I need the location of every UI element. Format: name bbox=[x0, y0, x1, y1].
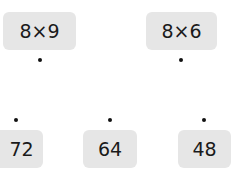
answer-card-1[interactable]: 72 bbox=[0, 130, 43, 168]
connector-dot-answer-1[interactable] bbox=[14, 118, 18, 122]
connector-dot-expression-2[interactable] bbox=[179, 58, 183, 62]
answer-label: 64 bbox=[98, 138, 122, 160]
answer-label: 72 bbox=[0, 138, 34, 160]
answer-card-2[interactable]: 64 bbox=[83, 130, 137, 168]
answer-label: 48 bbox=[192, 138, 216, 160]
connector-dot-answer-2[interactable] bbox=[108, 118, 112, 122]
answer-card-3[interactable]: 48 bbox=[178, 130, 231, 168]
expression-label: 8×6 bbox=[161, 20, 201, 42]
expression-card-1[interactable]: 8×9 bbox=[3, 12, 76, 50]
expression-label: 8×9 bbox=[19, 20, 59, 42]
expression-card-2[interactable]: 8×6 bbox=[146, 12, 217, 50]
connector-dot-answer-3[interactable] bbox=[202, 118, 206, 122]
connector-dot-expression-1[interactable] bbox=[38, 58, 42, 62]
